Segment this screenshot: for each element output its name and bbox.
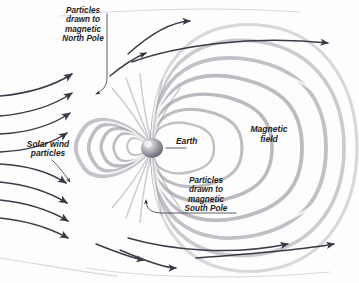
earth-sphere-icon <box>141 138 163 158</box>
label-solar-wind: Solar wind particles <box>12 140 84 159</box>
magnetosphere-diagram: Particles drawn to magnetic North Pole S… <box>0 0 359 283</box>
label-magnetic-field: Magnetic field <box>238 125 300 144</box>
label-south-pole: Particles drawn to magnetic South Pole <box>170 176 242 213</box>
label-earth: Earth <box>176 137 210 146</box>
label-north-pole: Particles drawn to magnetic North Pole <box>52 6 114 43</box>
